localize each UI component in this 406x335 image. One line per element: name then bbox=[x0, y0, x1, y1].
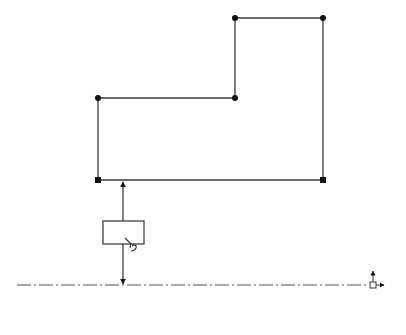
origin-axes-icon[interactable] bbox=[370, 271, 384, 288]
point-p6-square[interactable] bbox=[95, 177, 101, 183]
point-p1[interactable] bbox=[95, 95, 101, 101]
sketch-profile[interactable] bbox=[98, 18, 323, 180]
point-p5-square[interactable] bbox=[320, 177, 326, 183]
point-p4[interactable] bbox=[320, 15, 326, 21]
dimension-value-box[interactable] bbox=[103, 221, 144, 244]
linear-dimension[interactable] bbox=[103, 182, 144, 284]
point-p2[interactable] bbox=[232, 95, 238, 101]
point-p3[interactable] bbox=[232, 15, 238, 21]
sketch-points[interactable] bbox=[95, 15, 326, 183]
sketch-canvas[interactable] bbox=[0, 0, 406, 335]
